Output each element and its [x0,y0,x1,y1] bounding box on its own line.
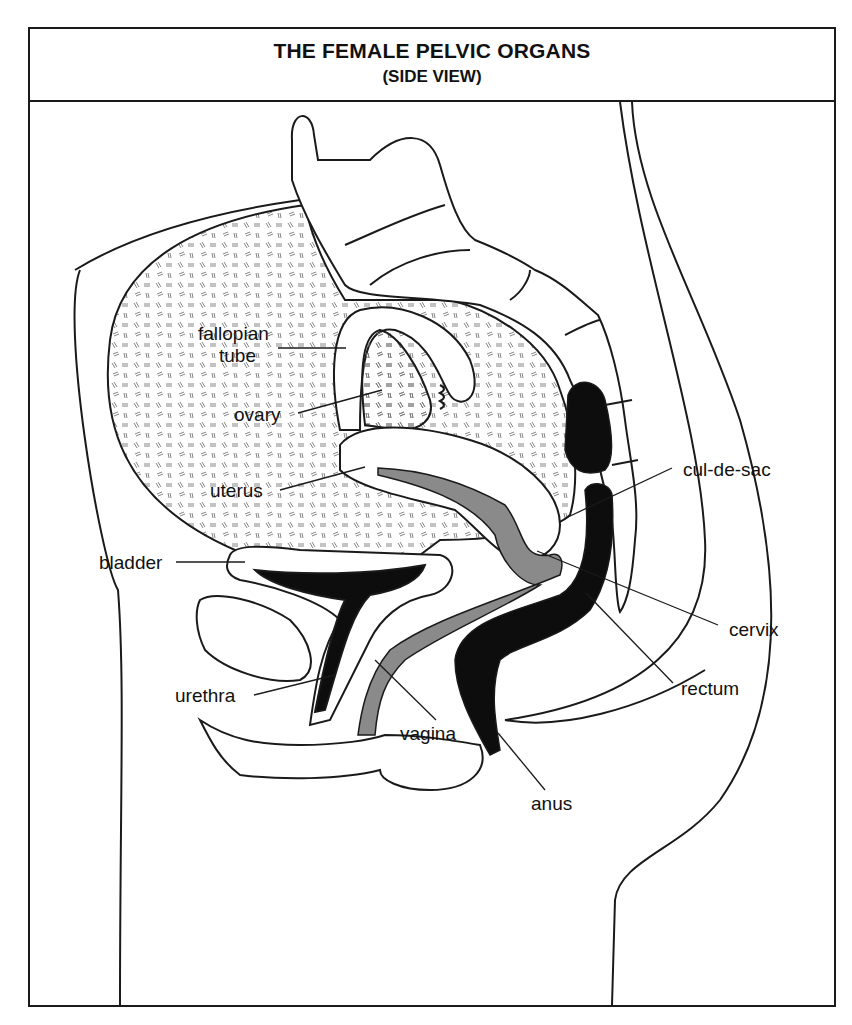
label-rectum: rectum [681,678,739,699]
label-urethra: urethra [175,685,236,706]
leader-rectum [586,593,673,683]
label-cervix: cervix [729,619,779,640]
label-cul-de-sac: cul-de-sac [683,459,771,480]
label-ovary: ovary [234,404,281,425]
label-fallopian-tube-1: fallopian [198,323,269,344]
label-bladder: bladder [99,552,163,573]
leader-anus [498,733,545,790]
pubic-bone [197,596,311,681]
body-outline-back [612,102,771,1005]
label-fallopian-tube-2: tube [219,345,256,366]
label-anus: anus [531,793,572,814]
label-vagina: vagina [400,723,456,744]
pelvic-diagram: fallopian tube ovary uterus bladder uret… [0,0,852,1025]
label-uterus: uterus [210,480,263,501]
